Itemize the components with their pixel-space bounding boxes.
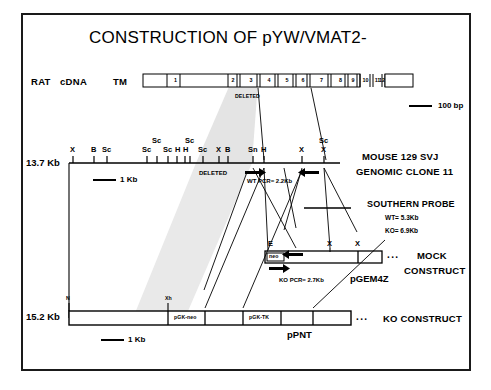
wt-pcr-primer-arrows	[245, 168, 319, 177]
genomic-site-x-2: X	[216, 146, 221, 154]
genomic-site-x-4: X	[321, 146, 326, 154]
genomic-name-line1: MOUSE 129 SVJ	[362, 152, 439, 162]
mock-plasmid-label: pGEM4Z	[350, 274, 389, 284]
label-rat: RAT	[31, 77, 51, 87]
scale-label-100bp: 100 bp	[438, 102, 463, 110]
figure-root: CONSTRUCTION OF pYW/VMAT2- RAT cDNA TM 1…	[0, 0, 491, 390]
genomic-site-sc-3: Sc	[152, 137, 161, 145]
cdna-deleted-label: DELETED	[235, 94, 260, 99]
wt-pcr-label: WT PCR= 2.2Kb	[247, 178, 292, 184]
ko-pcr-label: KO PCR= 2.7Kb	[279, 277, 324, 283]
label-cdna: cDNA	[60, 77, 87, 87]
ko-site-n: N	[66, 296, 70, 301]
ko-pgk-tk-label: pGK-TK	[249, 315, 269, 320]
genomic-site-x-1: X	[70, 146, 75, 154]
label-tm: TM	[113, 77, 127, 87]
southern-probe-title: SOUTHERN PROBE	[367, 200, 455, 209]
genomic-site-b-2: B	[225, 146, 230, 154]
southern-probe-connectors	[284, 168, 357, 232]
figure-title: CONSTRUCTION OF pYW/VMAT2-	[89, 29, 367, 46]
exon-number-9: 9	[349, 78, 357, 83]
exon-number-7: 7	[315, 78, 328, 83]
mock-site-e: E	[268, 240, 273, 248]
southern-probe-ko: KO= 6.9Kb	[385, 228, 418, 235]
genomic-site-sn: Sn	[248, 146, 258, 154]
exon-number-2: 2	[229, 78, 237, 83]
ko-construct-name: KO CONSTRUCT	[383, 314, 462, 324]
ko-pgk-neo-label: pGK-neo	[174, 315, 197, 320]
cdna-bar-extend	[385, 74, 413, 87]
exon-number-10: 10	[361, 78, 370, 83]
ko-site-xh: Xh	[165, 296, 172, 301]
mock-dots: ...	[387, 250, 400, 260]
southern-probe-wt: WT= 5.3Kb	[385, 215, 418, 222]
ko-construct-bar	[69, 311, 351, 325]
deletion-shade-lower	[133, 163, 252, 318]
exon-number-6: 6	[299, 78, 307, 83]
genomic-site-x-3: X	[299, 146, 304, 154]
cdna-to-genomic-connectors	[258, 88, 326, 160]
genomic-name-line2: GENOMIC CLONE 11	[356, 167, 453, 177]
exon-number-1: 1	[171, 78, 180, 83]
ko-plasmid-label: pPNT	[287, 330, 312, 340]
genomic-deleted-label: DELETED	[199, 170, 227, 176]
scale-label-1kb-ko: 1 Kb	[128, 336, 145, 344]
genomic-site-sc-7: Sc	[319, 137, 328, 145]
ko-size-label: 15.2 Kb	[26, 312, 60, 322]
genomic-site-b-1: B	[91, 146, 96, 154]
genomic-size-label: 13.7 Kb	[26, 158, 60, 168]
mock-site-x-2: X	[355, 240, 360, 248]
diagram-vector-layer	[0, 0, 491, 390]
exon-number-8: 8	[336, 78, 345, 83]
genomic-site-sc-1: Sc	[102, 146, 111, 154]
genomic-site-sc-6: Sc	[198, 146, 207, 154]
genomic-site-sc-4: Sc	[163, 146, 172, 154]
mock-name-line2: CONSTRUCT	[404, 266, 465, 276]
mock-name-line1: MOCK	[417, 251, 447, 261]
mock-site-x-1: X	[327, 240, 332, 248]
genomic-site-h-3: H	[261, 146, 266, 154]
exon-number-4: 4	[263, 78, 275, 83]
ko-dots: ...	[356, 312, 369, 322]
genomic-site-h-1: H	[175, 146, 180, 154]
scale-label-1kb-genomic: 1 Kb	[120, 176, 137, 184]
mock-neo-label: neo	[269, 254, 279, 259]
genomic-site-sc-5: Sc	[185, 137, 194, 145]
exon-number-3: 3	[245, 78, 257, 83]
exon-number-5: 5	[281, 78, 293, 83]
genomic-site-h-2: H	[183, 146, 188, 154]
genomic-site-sc-2: Sc	[142, 146, 151, 154]
